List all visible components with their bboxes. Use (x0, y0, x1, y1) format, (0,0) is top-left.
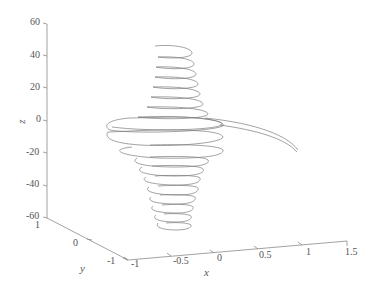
x-tick-neg0.5: -0.5 (173, 256, 189, 266)
z-axis-label: z (16, 119, 27, 123)
x-axis-label: x (204, 267, 209, 278)
z-tick-60: 60 (30, 17, 40, 27)
axes-lines (43, 23, 347, 260)
plot-canvas (0, 0, 378, 290)
x-tick-0.5: 0.5 (259, 250, 272, 260)
z-tick-40: 40 (30, 50, 40, 60)
y-axis-label: y (80, 263, 85, 274)
y-tick-neg1: -1 (107, 256, 115, 266)
z-tick-0: 0 (36, 114, 41, 124)
x-axis-line (128, 241, 347, 260)
y-tick-0: 0 (73, 238, 78, 248)
x-tick-neg1: -1 (131, 259, 139, 269)
helix-curve (107, 45, 298, 230)
y-tick-1: 1 (35, 220, 40, 230)
x-tick-1: 1 (306, 247, 311, 257)
z-tick-20: 20 (30, 82, 40, 92)
z-tick-neg20: -20 (26, 147, 39, 157)
x-tick-0: 0 (217, 253, 222, 263)
x-tick-1.5: 1.5 (345, 247, 358, 257)
z-tick-neg40: -40 (26, 179, 39, 189)
